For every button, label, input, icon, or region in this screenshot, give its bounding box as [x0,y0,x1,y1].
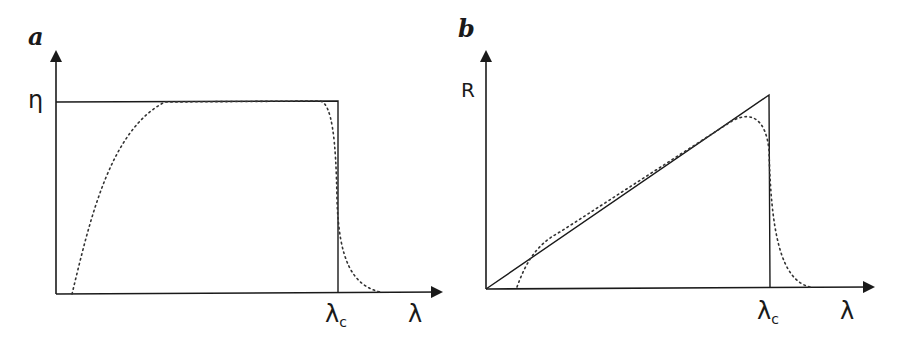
panel-b-x-axis [486,287,873,289]
panel-b-cutoff-lambda: λ [757,297,771,325]
panel-a-cutoff-lambda: λ [325,300,339,328]
panel-b-x-label: λ [840,297,854,325]
panel-b-letter: b [458,14,475,43]
panel-a-x-axis [56,292,441,294]
panel-b [486,52,873,289]
panel-b-cutoff-sub: c [771,311,779,327]
panel-b-cutoff-label: λc [757,297,779,325]
panel-a-letter: a [28,22,44,51]
panel-a-x-label: λ [408,300,422,328]
panel-a-y-label: η [28,86,43,114]
panel-a [56,52,441,294]
panel-a-cutoff-sub: c [339,314,347,330]
panel-b-y-label: R [461,78,475,102]
panel-a-cutoff-label: λc [325,300,347,328]
panel-a-real-curve [72,101,380,294]
panel-b-real-curve [517,117,810,287]
diagram-canvas [0,0,900,337]
